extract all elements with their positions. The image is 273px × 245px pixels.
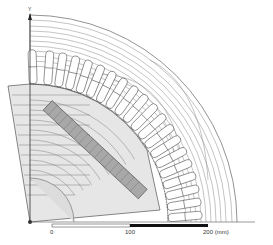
scale-tick-200: 200 (mm) (203, 229, 229, 235)
origin-point-icon (28, 220, 32, 224)
machine-cross-section-svg (0, 0, 273, 245)
scale-tick-100: 100 (125, 229, 135, 235)
scale-tick-0: 0 (50, 229, 53, 235)
scale-bar-black (130, 224, 208, 227)
flux-plot-figure: Y 0 100 200 (mm) (0, 0, 273, 245)
y-axis-arrow-icon (28, 13, 32, 20)
y-axis-label: Y (28, 6, 31, 12)
scale-bar-white (52, 224, 130, 227)
